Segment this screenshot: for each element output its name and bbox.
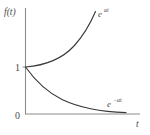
growth-curve-exponent: at xyxy=(104,7,109,13)
exponential-functions-figure: f(t) t 1 0 e at e −at xyxy=(0,0,150,135)
origin-label-zero: 0 xyxy=(15,110,20,121)
decay-curve-exponent: −at xyxy=(113,97,122,103)
curve-exponential-growth xyxy=(26,12,96,68)
y-axis-label: f(t) xyxy=(4,7,16,18)
growth-curve-annotation: e at xyxy=(98,7,109,19)
growth-curve-base: e xyxy=(98,9,102,19)
chart-canvas: f(t) t 1 0 e at e −at xyxy=(0,0,150,135)
decay-curve-annotation: e −at xyxy=(107,97,122,109)
x-axis-label: t xyxy=(136,119,139,129)
decay-curve-base: e xyxy=(107,99,111,109)
y-tick-label-one: 1 xyxy=(15,62,20,73)
